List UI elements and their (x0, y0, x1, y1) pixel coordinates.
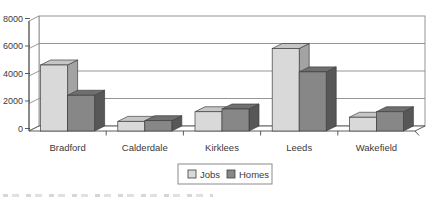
chart-page: 02000400060008000BradfordCalderdaleKirkl… (0, 0, 436, 197)
legend-label-jobs: Jobs (200, 169, 220, 180)
y-tick-label-0: 0 (18, 124, 23, 134)
bar-leeds-homes-side (326, 67, 336, 131)
bar-bradford-jobs (41, 65, 68, 131)
y-tick-label-8000: 8000 (3, 14, 23, 24)
x-tick-right-end (415, 131, 419, 136)
legend-swatch-homes (227, 170, 235, 178)
x-category-label-wakefield: Wakefield (356, 142, 397, 153)
bar-kirklees-homes (222, 109, 249, 131)
bar-wakefield-homes (376, 112, 403, 131)
bar-calderdale-jobs (118, 121, 145, 131)
y-tick-label-4000: 4000 (3, 69, 23, 79)
x-category-label-bradford: Bradford (49, 142, 85, 153)
legend-label-homes: Homes (239, 169, 269, 180)
bar-bradford-homes-side (95, 90, 105, 131)
cutoff-caption-fragment (3, 194, 213, 197)
bar-wakefield-jobs (349, 117, 376, 131)
bar-leeds-homes (299, 72, 326, 131)
y-tick-label-6000: 6000 (3, 41, 23, 51)
legend-swatch-jobs (188, 170, 196, 178)
y-tick-label-2000: 2000 (3, 96, 23, 106)
x-category-label-leeds: Leeds (286, 142, 312, 153)
jobs-homes-3d-bar-chart: 02000400060008000BradfordCalderdaleKirkl… (0, 0, 436, 197)
x-category-label-calderdale: Calderdale (122, 142, 168, 153)
bar-leeds-jobs (272, 49, 299, 132)
bar-bradford-homes (68, 95, 95, 131)
bar-kirklees-jobs (195, 112, 222, 131)
bar-calderdale-homes (145, 121, 172, 131)
x-category-label-kirklees: Kirklees (205, 142, 239, 153)
